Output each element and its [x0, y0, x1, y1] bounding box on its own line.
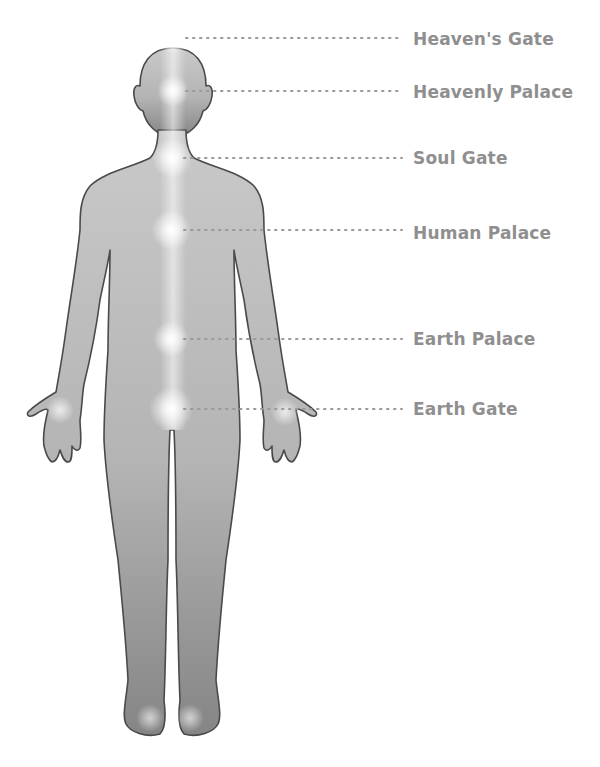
body-diagram	[0, 0, 600, 767]
label-heavens-gate: Heaven's Gate	[413, 29, 554, 49]
label-soul-gate: Soul Gate	[413, 148, 508, 168]
glow-left-palm	[46, 396, 74, 424]
glow-heavens-gate	[157, 22, 189, 54]
label-human-palace: Human Palace	[413, 223, 551, 243]
label-earth-gate: Earth Gate	[413, 399, 518, 419]
glow-right-palm	[271, 398, 299, 426]
glow-right-foot	[176, 704, 204, 732]
label-heavenly-palace: Heavenly Palace	[413, 82, 573, 102]
glow-left-foot	[136, 704, 164, 732]
label-earth-palace: Earth Palace	[413, 329, 535, 349]
glow-heavenly-palace	[157, 75, 189, 107]
